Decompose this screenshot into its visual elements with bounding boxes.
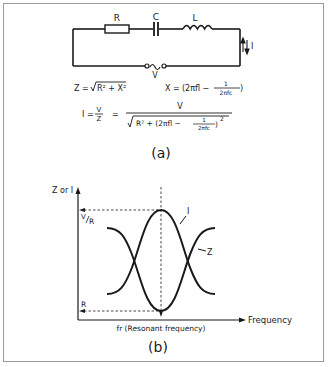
resonant-frequency-label: fr (Resonant frequency)	[117, 324, 206, 333]
y-axis-label: Z or I	[52, 186, 73, 195]
svg-text:I =: I =	[82, 110, 94, 119]
current-arrows-icon	[241, 38, 249, 54]
series-rlc-circuit	[73, 29, 240, 66]
caption-b: (b)	[148, 339, 168, 355]
svg-text:1: 1	[224, 80, 228, 87]
current-label: I	[251, 42, 253, 51]
svg-text:Z =: Z =	[74, 84, 89, 93]
svg-text:R² + X²: R² + X²	[97, 84, 126, 93]
capacitor-icon	[154, 22, 158, 36]
svg-text:): )	[240, 84, 243, 93]
svg-text:V: V	[97, 106, 102, 114]
svg-text:V: V	[177, 102, 183, 111]
svg-text:): )	[215, 120, 218, 129]
capacitor-label: C	[153, 12, 159, 22]
y-axis-arrow-icon	[76, 187, 81, 194]
inductor-icon	[183, 26, 212, 30]
peak-level-label-num: V	[81, 213, 86, 221]
min-level-label: R	[81, 300, 86, 309]
svg-text:2πfc: 2πfc	[198, 125, 210, 131]
min-level-arrow-icon	[79, 309, 85, 313]
x-axis-label: Frequency	[248, 315, 292, 325]
current-formula: I = V Z = V R² + (2πfl − 1 2πfc ) 2	[82, 102, 232, 131]
source-label: V	[152, 71, 158, 80]
peak-level-label-den: R	[89, 217, 94, 226]
resistor-icon	[105, 25, 129, 33]
peak-level-arrow-icon	[79, 208, 85, 212]
svg-text:R² + (2πfl −: R² + (2πfl −	[136, 119, 181, 128]
resistor-label: R	[114, 13, 120, 23]
resonance-graph: I Z Z or I Frequency fr (Resonant freque…	[52, 186, 292, 333]
svg-text:Z: Z	[97, 115, 102, 123]
svg-text:1: 1	[202, 117, 206, 123]
svg-text:X =: X =	[165, 84, 180, 93]
svg-text:2πfc: 2πfc	[220, 89, 233, 96]
inductor-label: L	[192, 13, 197, 23]
curve-i-label: I	[187, 207, 189, 216]
svg-text:=: =	[112, 110, 119, 119]
caption-a: (a)	[151, 145, 171, 161]
figure-canvas: R C L V I Z = R² + X² X = (2πfl − 1 2πfc…	[0, 0, 330, 367]
reactance-formula: X = (2πfl − 1 2πfc )	[165, 80, 243, 96]
curve-z-label: Z	[207, 248, 213, 257]
x-axis-arrow-icon	[239, 318, 246, 323]
ac-source-icon	[145, 64, 166, 70]
impedance-formula: Z = R² + X²	[74, 82, 126, 93]
svg-text:(2πfl −: (2πfl −	[182, 84, 209, 93]
svg-text:2: 2	[220, 115, 224, 122]
